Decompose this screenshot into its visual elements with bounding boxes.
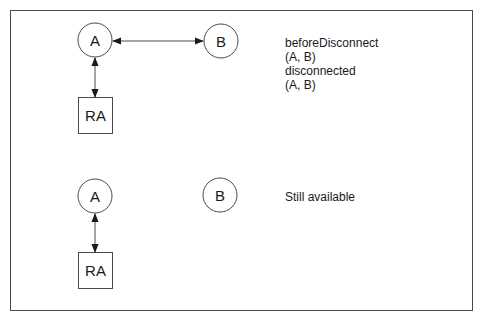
node-a-top-label: A bbox=[90, 32, 100, 49]
node-b-bottom: B bbox=[203, 178, 237, 212]
node-a-top: A bbox=[78, 23, 112, 57]
node-b-bottom-label: B bbox=[215, 187, 225, 204]
node-b-top: B bbox=[204, 24, 238, 58]
top-event-note: beforeDisconnect (A, B) disconnected (A,… bbox=[285, 36, 378, 92]
note-line: disconnected bbox=[285, 64, 378, 78]
diagram-canvas: A B RA A B RA bbox=[0, 0, 480, 320]
node-ra-top-label: RA bbox=[85, 107, 106, 124]
top-diagram: A B RA bbox=[78, 23, 238, 134]
note-line: beforeDisconnect bbox=[285, 36, 378, 50]
node-a-bottom-label: A bbox=[90, 188, 100, 205]
note-line: Still available bbox=[285, 190, 355, 204]
note-line: (A, B) bbox=[285, 50, 378, 64]
node-ra-top: RA bbox=[79, 98, 113, 134]
bottom-status-note: Still available bbox=[285, 190, 355, 204]
note-line: (A, B) bbox=[285, 78, 378, 92]
node-a-bottom: A bbox=[78, 179, 112, 213]
node-ra-bottom: RA bbox=[79, 253, 113, 289]
bottom-diagram: A B RA bbox=[78, 178, 237, 289]
node-b-top-label: B bbox=[216, 33, 226, 50]
node-ra-bottom-label: RA bbox=[85, 262, 106, 279]
